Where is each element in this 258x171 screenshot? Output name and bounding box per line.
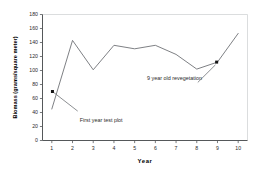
chart-background — [0, 0, 258, 171]
y-tick-label: 160 — [29, 25, 38, 31]
annotation-label-first-year-test-plot: First year test plot — [80, 117, 123, 123]
y-tick-label: 80 — [32, 81, 38, 87]
y-tick-label: 60 — [32, 95, 38, 101]
x-tick-label: 8 — [195, 145, 198, 151]
nine-year-old-revegetation-point — [215, 61, 218, 64]
x-tick-label: 10 — [235, 145, 241, 151]
y-tick-label: 100 — [29, 67, 38, 73]
x-tick-label: 7 — [175, 145, 178, 151]
chart-canvas: 020406080100120140160180 12345678910 Fir… — [0, 0, 258, 171]
x-tick-label: 3 — [92, 145, 95, 151]
y-tick-label: 0 — [35, 137, 38, 143]
x-tick-label: 2 — [71, 145, 74, 151]
y-axis-title: Biomass (grams/square meter) — [12, 36, 18, 118]
x-tick-label: 5 — [133, 145, 136, 151]
x-tick-label: 4 — [112, 145, 115, 151]
y-tick-label: 20 — [32, 123, 38, 129]
x-tick-label: 1 — [50, 145, 53, 151]
y-tick-label: 40 — [32, 109, 38, 115]
x-tick-label: 6 — [154, 145, 157, 151]
y-tick-label: 140 — [29, 39, 38, 45]
x-axis-title: Year — [137, 158, 152, 164]
x-tick-label: 9 — [216, 145, 219, 151]
y-tick-label: 180 — [29, 11, 38, 17]
first-year-test-plot-point — [51, 90, 54, 93]
y-tick-label: 120 — [29, 53, 38, 59]
biomass-line-chart: 020406080100120140160180 12345678910 Fir… — [0, 0, 258, 171]
annotation-label-nine-year-old-revegetation: 9 year old revegetation — [147, 75, 202, 81]
